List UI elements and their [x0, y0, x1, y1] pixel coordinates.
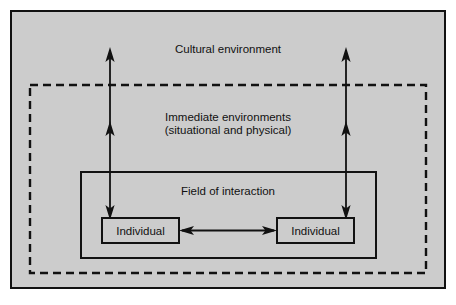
individual-right-label: Individual — [291, 225, 340, 237]
individual-left-label: Individual — [116, 225, 165, 237]
field-of-interaction-label: Field of interaction — [181, 185, 275, 197]
immediate-environments-label-line2: (situational and physical) — [165, 124, 292, 136]
immediate-environments-label-line1: Immediate environments — [165, 111, 291, 123]
diagram-canvas: Cultural environment Immediate environme… — [0, 0, 456, 305]
diagram-root: Cultural environment Immediate environme… — [0, 0, 456, 305]
cultural-environment-label: Cultural environment — [175, 43, 282, 55]
